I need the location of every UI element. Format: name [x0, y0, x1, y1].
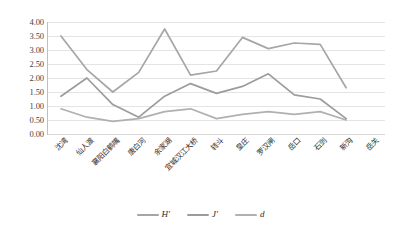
series-line-d — [61, 109, 346, 122]
y-axis-tick-label: 3.00 — [0, 46, 44, 55]
legend-swatch-icon — [235, 214, 257, 216]
legend-swatch-icon — [187, 214, 209, 216]
line-chart: 4.003.503.002.502.001.501.000.500.00 沈湾仙… — [0, 0, 401, 240]
legend-label: H′ — [162, 210, 170, 219]
series-line-h-prime — [61, 29, 346, 92]
y-axis-tick-label: 1.00 — [0, 102, 44, 111]
legend-label: d — [260, 210, 265, 219]
chart-legend: H′J′d — [0, 210, 401, 219]
x-axis-tick-labels: 沈湾仙人渡襄阳白鹤嘴唐白河余家湖宜城汉江大桥转斗皇庄罗汉闸岳口石剅新沟岳关 — [48, 136, 385, 194]
y-axis-tick-label: 4.00 — [0, 18, 44, 27]
legend-label: J′ — [212, 210, 218, 219]
y-axis-tick-label: 0.50 — [0, 116, 44, 125]
legend-item[interactable]: J′ — [187, 210, 218, 219]
series-line-j-prime — [61, 74, 346, 119]
legend-item[interactable]: d — [235, 210, 265, 219]
y-axis-tick-label: 1.50 — [0, 88, 44, 97]
y-axis-tick-label: 2.00 — [0, 74, 44, 83]
legend-swatch-icon — [137, 214, 159, 216]
y-axis-tick-label: 2.50 — [0, 60, 44, 69]
legend-item[interactable]: H′ — [137, 210, 170, 219]
y-axis-tick-label: 0.00 — [0, 130, 44, 139]
y-axis-tick-label: 3.50 — [0, 32, 44, 41]
y-axis-tick-labels: 4.003.503.002.502.001.501.000.500.00 — [0, 22, 44, 134]
